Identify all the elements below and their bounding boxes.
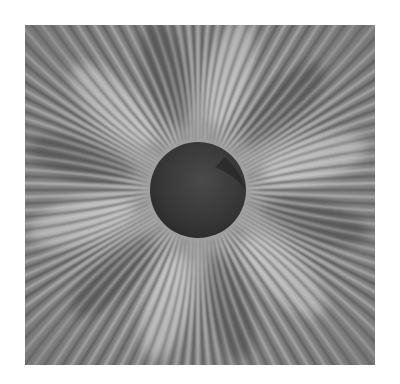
dark-disc bbox=[150, 142, 246, 238]
fringe-pattern bbox=[25, 25, 375, 365]
fringe-photograph bbox=[25, 25, 375, 365]
